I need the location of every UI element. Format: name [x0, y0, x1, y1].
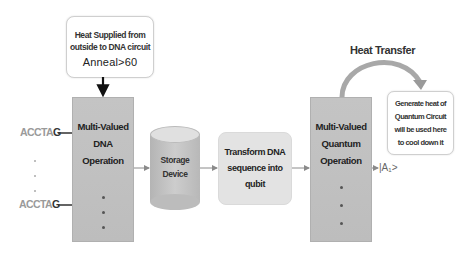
input-sequence-top: ACCTAG — [20, 126, 61, 138]
ellipsis-dot — [340, 222, 343, 225]
ellipsis-dot — [340, 204, 343, 207]
heat-transfer-label: Heat Transfer — [350, 44, 415, 56]
ellipsis-dot — [34, 160, 36, 162]
storage-label: Storage Device — [150, 153, 200, 181]
ellipsis-dot — [34, 175, 36, 177]
ellipsis-dot — [102, 196, 105, 199]
input-sequence-bottom: ACCTAG — [19, 198, 60, 210]
dna-operation-box: Multi-Valued DNA Operation — [72, 97, 134, 242]
cool-down-box: Generate heat of Quantum Circuit will be… — [387, 91, 454, 155]
ellipsis-dot — [102, 211, 105, 214]
transform-box: Transform DNA sequence into qubit — [218, 132, 292, 205]
storage-device-cylinder: Storage Device — [150, 126, 200, 210]
dna-operation-title: Multi-Valued DNA Operation — [73, 118, 133, 169]
ellipsis-dot — [340, 186, 343, 189]
quantum-operation-title: Multi-Valued Quantum Operation — [311, 118, 371, 169]
cylinder-top — [150, 126, 200, 143]
heat-transfer-arrowhead — [413, 80, 427, 90]
output-ket-label: |A₁> — [379, 162, 397, 173]
ellipsis-dot — [102, 226, 105, 229]
quantum-operation-box: Multi-Valued Quantum Operation — [310, 97, 372, 242]
ellipsis-dot — [34, 190, 36, 192]
